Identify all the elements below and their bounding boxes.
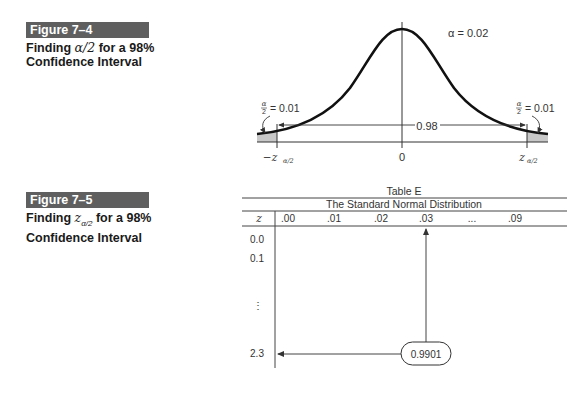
col-header: ... — [468, 213, 476, 224]
table-e-figure: Table E The Standard Normal Distribution… — [242, 185, 567, 368]
table-title: Table E — [386, 185, 421, 197]
right-frac-den: 2 — [517, 108, 521, 115]
left-tail-pointer — [263, 116, 270, 133]
z-header: z — [255, 212, 262, 224]
col-header: .00 — [281, 213, 295, 224]
col-header: .02 — [374, 213, 388, 224]
right-tail-pointer — [532, 116, 540, 133]
pos-z-sub: α/2 — [527, 157, 538, 165]
row-label: 0.0 — [250, 234, 264, 245]
right-tail-label: = 0.01 — [525, 102, 555, 114]
col-header: .01 — [327, 213, 341, 224]
row-label: 0.1 — [250, 253, 264, 264]
center-area-label: 0.98 — [416, 120, 437, 132]
right-frac-num: α — [517, 100, 522, 108]
highlight-value: 0.9901 — [411, 349, 442, 360]
table-subtitle: The Standard Normal Distribution — [326, 198, 482, 210]
col-header: .09 — [508, 213, 522, 224]
zero-label: 0 — [399, 151, 405, 163]
row-label: ⋮ — [253, 300, 263, 311]
pos-z-label: z — [518, 151, 525, 163]
left-frac-den: 2 — [262, 108, 266, 115]
left-tail-label: = 0.01 — [270, 102, 300, 114]
neg-z-sub: α/2 — [283, 157, 294, 165]
col-header: .03 — [419, 213, 433, 224]
left-frac-num: α — [262, 100, 267, 108]
normal-curve-figure: 0.98 α = 0.02 α 2 = 0.01 α 2 = 0.01 −z α… — [257, 22, 555, 165]
row-label: 2.3 — [250, 348, 264, 359]
alpha-label: α = 0.02 — [448, 27, 488, 39]
neg-z-label: −z — [263, 151, 278, 163]
figures-canvas: 0.98 α = 0.02 α 2 = 0.01 α 2 = 0.01 −z α… — [0, 0, 586, 395]
